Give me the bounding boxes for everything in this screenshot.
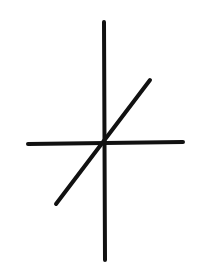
horizontal-stroke: [28, 142, 183, 144]
crossed-lines-symbol: [0, 0, 212, 278]
